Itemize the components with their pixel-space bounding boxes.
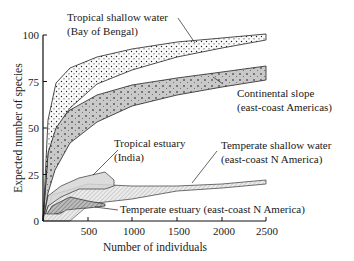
y-tick: 75 bbox=[28, 76, 40, 88]
x-tick: 2000 bbox=[213, 225, 236, 237]
y-tick: 50 bbox=[28, 122, 40, 134]
label-temperate-shallow: Temperate shallow water bbox=[221, 139, 332, 151]
label-temperate-shallow-sub: (east-coast N America) bbox=[221, 153, 323, 166]
y-tick: 25 bbox=[28, 169, 40, 181]
label-tropical-estuary-sub: (India) bbox=[114, 151, 144, 164]
label-temperate-estuary: Temperate estuary (east-coast N America) bbox=[120, 203, 305, 216]
y-tick-labels: 100 75 50 25 0 bbox=[23, 29, 40, 227]
x-tick-labels: 500 1000 1500 2000 2500 bbox=[81, 225, 279, 237]
bands bbox=[43, 34, 266, 221]
x-tick: 2500 bbox=[256, 225, 279, 237]
y-axis-title: Expected number of species bbox=[12, 63, 25, 193]
x-tick: 1000 bbox=[123, 225, 146, 237]
rarefaction-figure: 100 75 50 25 0 500 1000 1500 2000 2500 N… bbox=[0, 0, 354, 261]
x-tick: 500 bbox=[81, 225, 98, 237]
label-tropical-shallow-sub: (Bay of Bengal) bbox=[67, 25, 138, 38]
y-tick: 100 bbox=[23, 29, 40, 41]
x-axis-title: Number of individuals bbox=[103, 241, 208, 253]
label-continental-slope-sub: (east-coast Americas) bbox=[237, 101, 332, 114]
label-tropical-estuary: Tropical estuary bbox=[114, 137, 186, 149]
label-continental-slope: Continental slope bbox=[237, 87, 314, 99]
x-tick: 1500 bbox=[168, 225, 191, 237]
label-tropical-shallow: Tropical shallow water bbox=[67, 11, 168, 23]
y-tick: 0 bbox=[34, 215, 40, 227]
